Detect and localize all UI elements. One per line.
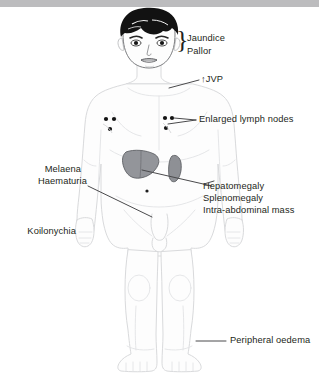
- label-enlarged-lymph-nodes: Enlarged lymph nodes: [199, 114, 294, 126]
- head: [118, 8, 180, 68]
- clinical-signs-figure: } Jaundice Pallor ↑JVP Enlarged lymph no…: [0, 0, 319, 384]
- umbilicus-marker: [145, 189, 148, 192]
- label-pallor: Pallor: [187, 46, 211, 58]
- label-splenomegaly: Splenomegaly: [203, 193, 263, 205]
- label-hepatomegaly: Hepatomegaly: [203, 181, 264, 193]
- label-peripheral-oedema: Peripheral oedema: [230, 335, 310, 347]
- label-haematuria: Haematuria: [38, 176, 87, 188]
- body-outline: [76, 63, 244, 372]
- label-koilonychia: Koilonychia: [27, 226, 76, 238]
- label-jvp: ↑JVP: [201, 74, 223, 86]
- label-melaena: Melaena: [45, 164, 81, 176]
- label-jaundice: Jaundice: [187, 33, 225, 45]
- label-intra-abdominal-mass: Intra-abdominal mass: [203, 205, 294, 217]
- body-diagram: [0, 0, 319, 384]
